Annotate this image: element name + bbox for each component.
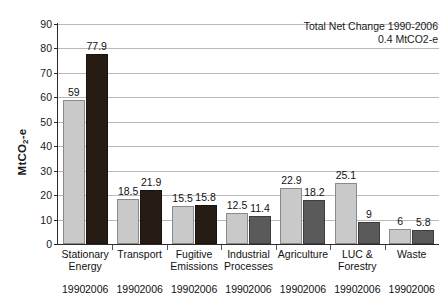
bar-1990 <box>63 100 85 244</box>
y-axis-tick-label: 80 <box>26 43 52 53</box>
bar-2006 <box>412 230 434 244</box>
bar-value-label-2006: 18.2 <box>297 187 331 198</box>
gridline <box>58 171 439 172</box>
annotation-line-1: Total Net Change 1990-2006 <box>304 20 438 33</box>
y-axis-tick-label: 40 <box>26 141 52 151</box>
y-axis-tick-mark <box>54 146 58 147</box>
y-axis-tick-mark <box>54 220 58 221</box>
gridline <box>58 73 439 74</box>
annotation-line-2: 0.4 MtCO2-e <box>304 33 438 46</box>
bar-1990 <box>117 199 139 244</box>
y-axis-tick-label: 70 <box>26 68 52 78</box>
bar-1990 <box>172 206 194 244</box>
bar-2006 <box>140 190 162 244</box>
bar-value-label-2006: 9 <box>352 209 386 220</box>
y-axis-tick-label: 60 <box>26 92 52 102</box>
y-axis-tick-mark <box>54 122 58 123</box>
x-axis-category-label: Waste <box>379 248 445 260</box>
y-axis-tick-mark <box>54 244 58 245</box>
gridline <box>58 146 439 147</box>
x-axis-line <box>57 244 439 245</box>
year-label-2006: 2006 <box>81 283 113 295</box>
year-label-2006: 2006 <box>135 283 167 295</box>
bar-2006 <box>358 222 380 244</box>
bar-1990 <box>226 213 248 244</box>
bar-2006 <box>303 200 325 244</box>
bar-value-label-1990: 22.9 <box>274 175 308 186</box>
y-axis-line <box>57 23 58 245</box>
category-label-line-1: Waste <box>379 248 445 260</box>
gridline <box>58 48 439 49</box>
plot-area: 9080706050403020100 5977.918.521.915.515… <box>58 24 439 244</box>
x-axis-category-labels: StationaryEnergyTransportFugitiveEmissio… <box>58 248 439 280</box>
year-label-2006: 2006 <box>298 283 330 295</box>
y-axis-tick-label: 90 <box>26 19 52 29</box>
category-label-line-2: Forestry <box>324 260 390 272</box>
y-axis-tick-mark <box>54 24 58 25</box>
bar-1990 <box>389 229 411 244</box>
gridline <box>58 122 439 123</box>
year-label-2006: 2006 <box>244 283 276 295</box>
y-axis-tick-mark <box>54 48 58 49</box>
bar-2006 <box>195 205 217 244</box>
total-net-change-annotation: Total Net Change 1990-2006 0.4 MtCO2-e <box>304 20 438 46</box>
bar-value-label-2006: 77.9 <box>80 41 114 52</box>
y-axis-title-tail: -e <box>16 129 28 140</box>
y-axis-tick-label: 0 <box>26 239 52 249</box>
y-axis-tick-mark <box>54 73 58 74</box>
y-axis-tick-label: 20 <box>26 190 52 200</box>
bar-value-label-2006: 21.9 <box>134 177 168 188</box>
bar-2006 <box>86 54 108 244</box>
bar-value-label-2006: 11.4 <box>243 203 277 214</box>
bar-value-label-2006: 5.8 <box>406 217 440 228</box>
y-axis-tick-mark <box>54 195 58 196</box>
bar-value-label-1990: 25.1 <box>329 170 363 181</box>
year-label-2006: 2006 <box>190 283 222 295</box>
bar-value-label-2006: 15.8 <box>189 192 223 203</box>
gridline <box>58 97 439 98</box>
y-axis-tick-mark <box>54 171 58 172</box>
category-label-line-2: Processes <box>215 260 281 272</box>
year-label-2006: 2006 <box>353 283 385 295</box>
x-axis-year-labels: 1990200619902006199020061990200619902006… <box>58 283 439 299</box>
y-axis-tick-label: 30 <box>26 166 52 176</box>
year-label-2006: 2006 <box>407 283 439 295</box>
category-label-line-2: Energy <box>52 260 118 272</box>
y-axis-tick-label: 50 <box>26 117 52 127</box>
y-axis-tick-label: 10 <box>26 215 52 225</box>
bar-2006 <box>249 216 271 244</box>
emissions-bar-chart: MtCO2-e 9080706050403020100 5977.918.521… <box>0 0 446 306</box>
